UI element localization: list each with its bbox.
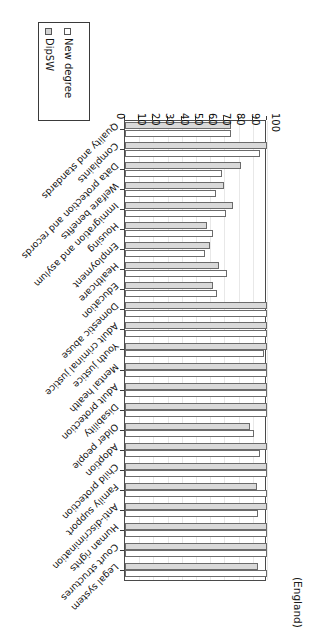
bar-dipsw[interactable]	[125, 463, 267, 470]
bar-dipsw[interactable]	[125, 222, 207, 229]
value-tick-label: 50	[193, 113, 204, 126]
category-tick	[120, 470, 124, 471]
bar-new-degree[interactable]	[125, 410, 267, 417]
legend-item-dipsw[interactable]: DipSW	[44, 28, 55, 71]
value-tick-label: 20	[150, 113, 161, 126]
legend-label-dipsw: DipSW	[44, 38, 55, 71]
category-tick	[120, 390, 124, 391]
legend-item-new-degree[interactable]: New degree	[63, 28, 74, 98]
category-tick	[120, 430, 124, 431]
value-tick	[266, 116, 267, 120]
bar-dipsw[interactable]	[125, 302, 267, 309]
bar-dipsw[interactable]	[125, 162, 241, 169]
bar-dipsw[interactable]	[125, 282, 213, 289]
bar-new-degree[interactable]	[125, 370, 267, 377]
value-tick-label: 40	[179, 113, 190, 126]
value-tick-label: 60	[207, 113, 218, 126]
bar-new-degree[interactable]	[125, 510, 258, 517]
bar-new-degree[interactable]	[125, 470, 267, 477]
legend-label-new-degree: New degree	[63, 38, 74, 98]
category-tick	[120, 570, 124, 571]
bar-dipsw[interactable]	[125, 423, 250, 430]
bar-new-degree[interactable]	[125, 150, 260, 157]
bar-dipsw[interactable]	[125, 343, 267, 350]
bar-dipsw[interactable]	[125, 563, 258, 570]
figure-rotation-wrapper: (England) New degree DipSW 0102030405060…	[0, 0, 309, 640]
category-tick	[120, 209, 124, 210]
bar-dipsw[interactable]	[125, 363, 267, 370]
chart-legend: New degree DipSW	[38, 22, 90, 121]
bar-new-degree[interactable]	[125, 450, 260, 457]
bar-new-degree[interactable]	[125, 170, 222, 177]
category-tick	[120, 530, 124, 531]
bar-dipsw[interactable]	[125, 503, 267, 510]
bar-chart-figure: (England) New degree DipSW 0102030405060…	[0, 0, 309, 640]
bar-new-degree[interactable]	[125, 310, 267, 317]
bar-new-degree[interactable]	[125, 571, 267, 578]
bar-dipsw[interactable]	[125, 322, 267, 329]
category-tick	[120, 149, 124, 150]
category-tick	[120, 249, 124, 250]
bar-dipsw[interactable]	[125, 383, 267, 390]
value-axis: 0102030405060708090100	[124, 80, 266, 120]
category-tick	[120, 189, 124, 190]
category-tick	[120, 490, 124, 491]
bar-new-degree[interactable]	[125, 290, 217, 297]
bar-new-degree[interactable]	[125, 230, 213, 237]
category-tick	[120, 510, 124, 511]
legend-swatch-dipsw-icon	[45, 28, 52, 35]
category-tick	[120, 410, 124, 411]
category-tick	[120, 309, 124, 310]
category-tick	[120, 550, 124, 551]
plot-area	[124, 120, 266, 581]
value-tick-label: 30	[164, 113, 175, 126]
bar-new-degree[interactable]	[125, 210, 226, 217]
bar-dipsw[interactable]	[125, 483, 257, 490]
bar-dipsw[interactable]	[125, 242, 210, 249]
bar-dipsw[interactable]	[125, 443, 267, 450]
category-tick	[120, 269, 124, 270]
figure-caption: (England)	[292, 577, 304, 640]
bar-new-degree[interactable]	[125, 270, 227, 277]
category-tick	[120, 370, 124, 371]
category-tick	[120, 229, 124, 230]
category-tick	[120, 350, 124, 351]
bar-new-degree[interactable]	[125, 330, 267, 337]
value-tick-label: 100	[270, 113, 281, 132]
category-axis: Legal systemCourt structuresHuman rights…	[0, 120, 124, 581]
value-tick-label: 10	[136, 113, 147, 126]
bar-dipsw[interactable]	[125, 182, 224, 189]
bar-dipsw[interactable]	[125, 403, 267, 410]
bar-new-degree[interactable]	[125, 490, 267, 497]
bar-new-degree[interactable]	[125, 430, 254, 437]
category-tick	[120, 329, 124, 330]
category-tick	[120, 289, 124, 290]
bar-dipsw[interactable]	[125, 523, 267, 530]
value-tick-label: 70	[221, 113, 232, 126]
bar-new-degree[interactable]	[125, 390, 267, 397]
category-tick	[120, 169, 124, 170]
bar-new-degree[interactable]	[125, 190, 216, 197]
category-tick	[120, 129, 124, 130]
value-tick-label: 90	[250, 113, 261, 126]
gridline	[267, 121, 268, 580]
bar-new-degree[interactable]	[125, 350, 264, 357]
bar-new-degree[interactable]	[125, 130, 232, 137]
value-tick-label: 0	[115, 113, 126, 119]
bar-new-degree[interactable]	[125, 550, 267, 557]
bar-dipsw[interactable]	[125, 202, 233, 209]
legend-swatch-new-degree-icon	[64, 28, 71, 35]
bar-new-degree[interactable]	[125, 530, 267, 537]
bar-dipsw[interactable]	[125, 142, 267, 149]
bar-dipsw[interactable]	[125, 543, 267, 550]
bar-new-degree[interactable]	[125, 250, 205, 257]
value-tick-label: 80	[235, 113, 246, 126]
category-tick	[120, 450, 124, 451]
bar-dipsw[interactable]	[125, 262, 219, 269]
